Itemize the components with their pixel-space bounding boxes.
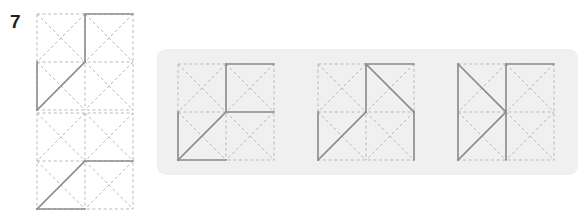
option-3-svg[interactable] (456, 62, 556, 162)
question-number: 7 (10, 12, 20, 31)
solid-shape (37, 161, 133, 209)
prompt-figure-2-svg (35, 111, 135, 211)
prompt-figure-1 (35, 12, 135, 112)
prompt-figure-2 (35, 111, 135, 211)
option-1[interactable] (176, 62, 276, 162)
option-3[interactable] (456, 62, 556, 162)
puzzle-canvas: 7 (0, 0, 586, 219)
option-2[interactable] (316, 62, 416, 162)
prompt-figure-1-svg (35, 12, 135, 112)
option-1-svg[interactable] (176, 62, 276, 162)
option-2-svg[interactable] (316, 62, 416, 162)
